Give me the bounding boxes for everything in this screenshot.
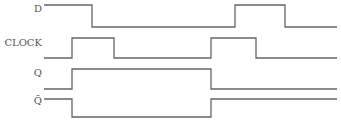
waveform-q-bar bbox=[44, 99, 337, 117]
waveform-d bbox=[44, 5, 337, 27]
waveform-clock bbox=[44, 38, 337, 58]
waveform-q bbox=[44, 69, 337, 89]
timing-waveforms bbox=[0, 0, 341, 121]
